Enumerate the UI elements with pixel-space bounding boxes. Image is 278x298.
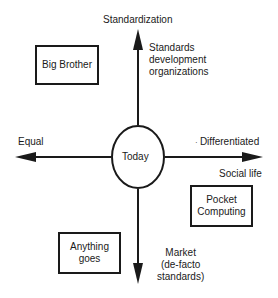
market-line-3: standards) bbox=[157, 271, 204, 283]
quadrant-box-big-brother: Big Brother bbox=[35, 45, 99, 85]
market-line-2: (de-facto bbox=[157, 259, 204, 271]
market-label: Market (de-facto standards) bbox=[157, 247, 204, 283]
market-line-1: Market bbox=[157, 247, 204, 259]
social-life-label: Social life bbox=[219, 168, 262, 179]
axis-label-equal: Equal bbox=[18, 136, 44, 147]
big-brother-text: Big Brother bbox=[42, 59, 92, 71]
standards-orgs-label: Standards development organizations bbox=[149, 42, 208, 78]
differentiated-text: Differentiated bbox=[200, 136, 259, 147]
arrowhead-left-icon bbox=[15, 152, 36, 162]
pocket-computing-line-1: Pocket bbox=[197, 194, 245, 206]
axis-label-standardization: Standardization bbox=[103, 14, 173, 25]
anything-goes-line-2: goes bbox=[70, 253, 109, 265]
standards-orgs-line-2: development bbox=[149, 54, 208, 66]
standards-orgs-line-3: organizations bbox=[149, 66, 208, 78]
quadrant-box-pocket-computing: Pocket Computing bbox=[190, 185, 253, 227]
today-label: Today bbox=[122, 151, 149, 162]
arrowhead-right-icon bbox=[242, 152, 263, 162]
pocket-computing-line-2: Computing bbox=[197, 206, 245, 218]
arrowhead-down-icon bbox=[133, 263, 143, 284]
standards-orgs-line-1: Standards bbox=[149, 42, 208, 54]
arrowhead-up-icon bbox=[133, 29, 143, 50]
anything-goes-line-1: Anything bbox=[70, 241, 109, 253]
axis-label-differentiated: · Differentiated bbox=[195, 136, 259, 148]
quadrant-box-anything-goes: Anything goes bbox=[58, 232, 121, 274]
